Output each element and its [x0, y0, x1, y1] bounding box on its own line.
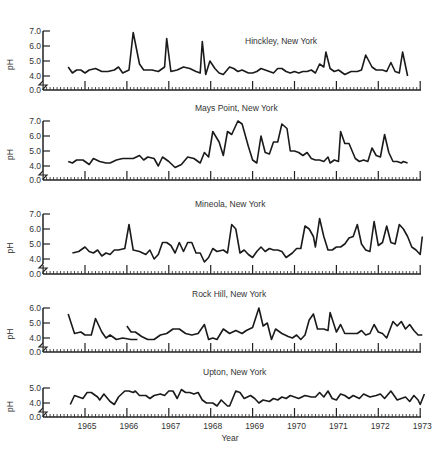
- panel-title: Hinckley, New York: [245, 36, 318, 46]
- x-tick-label: 1972: [371, 421, 390, 431]
- y-axis-label: pH: [5, 401, 15, 412]
- panel-title: Mays Point, New York: [195, 103, 278, 113]
- panel-hinckley: Hinckley, New YorkpH0.04.05.06.07.0: [5, 26, 421, 95]
- y-tick-label: 6.0: [29, 131, 41, 141]
- y-tick-label: 0.0: [29, 269, 41, 279]
- y-tick-label: 4.0: [29, 398, 41, 408]
- y-tick-label: 4.0: [29, 161, 41, 171]
- ph-time-series-chart: Hinckley, New YorkpH0.04.05.06.07.0Mays …: [0, 0, 447, 459]
- panel-mays-point: Mays Point, New YorkpH0.04.05.06.07.0: [5, 103, 421, 185]
- y-tick-label: 7.0: [29, 209, 41, 219]
- y-tick-label: 0.0: [29, 347, 41, 357]
- y-tick-label: 4.0: [29, 254, 41, 264]
- y-axis-label: pH: [5, 59, 15, 70]
- x-tick-label: 1971: [329, 421, 348, 431]
- y-tick-label: 5.0: [29, 239, 41, 249]
- ph-series-line: [72, 219, 422, 263]
- ph-series-line: [127, 308, 422, 340]
- panel-title: Upton, New York: [203, 367, 267, 377]
- chart-canvas: Hinckley, New YorkpH0.04.05.06.07.0Mays …: [0, 0, 447, 459]
- y-tick-label: 5.0: [29, 146, 41, 156]
- x-tick-label: 1970: [287, 421, 306, 431]
- y-tick-label: 6.0: [29, 41, 41, 51]
- y-axis-label: pH: [5, 329, 15, 340]
- x-tick-label: 1969: [245, 421, 264, 431]
- y-tick-label: 6.0: [29, 224, 41, 234]
- y-tick-label: 4.0: [29, 71, 41, 81]
- y-axis-label: pH: [5, 149, 15, 160]
- y-tick-label: 0.0: [29, 85, 41, 95]
- x-tick-label: 1967: [161, 421, 180, 431]
- y-tick-label: 0.0: [29, 412, 41, 422]
- y-axis-label: pH: [5, 243, 15, 254]
- y-tick-label: 0.0: [29, 175, 41, 185]
- y-tick-label: 5.0: [29, 318, 41, 328]
- x-axis-label: Year: [221, 433, 238, 443]
- x-axis-tick-labels: 196519661967196819691970197119721973: [78, 421, 432, 431]
- panel-title: Mineola, New York: [195, 199, 266, 209]
- y-tick-label: 5.0: [29, 56, 41, 66]
- x-tick-label: 1966: [119, 421, 138, 431]
- panel-rock-hill: Rock Hill, New YorkpH0.04.05.06.0: [5, 289, 422, 357]
- ph-series-line: [68, 33, 407, 77]
- y-tick-label: 4.0: [29, 333, 41, 343]
- y-tick-label: 5.0: [29, 383, 41, 393]
- x-tick-label: 1968: [203, 421, 222, 431]
- x-tick-label: 1973: [413, 421, 432, 431]
- panel-mineola: Mineola, New YorkpH0.04.05.06.07.0: [5, 199, 422, 279]
- y-tick-label: 6.0: [29, 303, 41, 313]
- panel-title: Rock Hill, New York: [192, 289, 267, 299]
- x-tick-label: 1965: [78, 421, 97, 431]
- ph-series-line: [70, 390, 424, 407]
- panel-upton: Upton, New YorkpH0.04.05.0: [5, 367, 424, 422]
- y-tick-label: 7.0: [29, 26, 41, 36]
- ph-series-line: [68, 121, 407, 168]
- y-tick-label: 7.0: [29, 116, 41, 126]
